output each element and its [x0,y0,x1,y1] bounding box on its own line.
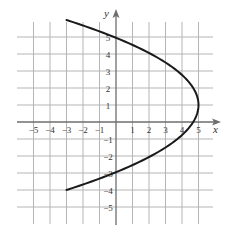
y-tick-label: −5 [103,203,113,213]
y-tick-label: −2 [103,152,113,162]
grid [17,22,213,224]
y-tick-label: 2 [106,84,111,94]
y-tick-label: 4 [106,50,111,60]
y-tick-label: 3 [106,67,111,77]
x-axis-label: x [212,123,218,135]
x-tick-label: −3 [62,125,72,135]
x-tick-label: −2 [78,125,88,135]
parabola-graph: x y −5−4−3−2−11234554321−1−2−3−4−5 [0,0,231,235]
y-tick-label: 1 [106,101,111,111]
x-tick-label: 3 [163,125,168,135]
x-tick-label: −5 [29,125,39,135]
y-axis-label: y [103,7,109,19]
y-tick-label: −4 [103,186,113,196]
x-tick-label: 1 [130,125,135,135]
x-tick-label: −1 [95,125,105,135]
y-tick-label: −1 [103,135,113,145]
x-tick-label: 5 [196,125,201,135]
x-tick-label: 2 [147,125,152,135]
x-tick-label: −4 [45,125,55,135]
